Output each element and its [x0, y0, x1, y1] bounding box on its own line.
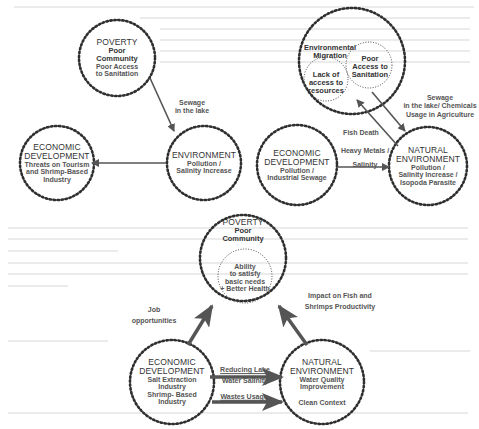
diagram-shapes [0, 0, 479, 429]
node-lack-access: Lack of access to resources [308, 71, 344, 95]
node-text: to Sanitation [96, 70, 138, 77]
node-title: ENVIRONMENT [290, 367, 354, 376]
node-text: Pollution / [172, 160, 236, 167]
node-text: Pollution / [264, 167, 329, 174]
node-migration: Environmental Migration [304, 44, 356, 60]
node-natural-2: NATURAL ENVIRONMENT Water Quality Improv… [290, 358, 354, 406]
node-text: Pollution / [396, 164, 460, 171]
node-title: ENVIRONMENT [396, 155, 460, 164]
node-text: to satisfy [220, 271, 270, 278]
node-text: Salinity Increase / [396, 171, 460, 178]
node-text: + Better Health [220, 285, 270, 292]
node-economic-3: ECONOMIC DEVELOPMENT Salt Extraction Ind… [139, 358, 204, 405]
edge-text: Water Salinity [220, 378, 270, 386]
edge-label-wastes: Wastes Usage [220, 393, 267, 401]
edge-text: in the lake/ Chemicals [403, 103, 476, 111]
node-title: DEVELOPMENT [24, 152, 89, 161]
edge-label-jobs: Job opportunities [132, 306, 177, 326]
node-text: basic needs [220, 278, 270, 285]
edge-label-salinity: Reducing Lake Water Salinity [220, 366, 270, 386]
edge-label-sewage-chem: Sewage in the lake/ Chemicals Usage in A… [403, 94, 476, 119]
node-text: resources [308, 87, 344, 95]
node-text: Sanitation [352, 71, 388, 79]
edge-label-fish-death: Fish Death [343, 129, 379, 137]
node-text: Industry [139, 384, 204, 391]
node-text: Clean Context [290, 399, 354, 406]
node-poor-access: Poor Access to Sanitation [352, 55, 388, 79]
node-economic-2: ECONOMIC DEVELOPMENT Pollution / Industr… [264, 149, 329, 182]
edge-text: Fish Death [343, 129, 379, 137]
node-text: Salt Extraction [139, 376, 204, 383]
node-ability: Ability to satisfy basic needs + Better … [220, 263, 270, 292]
edge-text: Shrimps Productivity [305, 304, 375, 312]
diagram-canvas: POVERTY Poor Community Poor Access to Sa… [0, 0, 479, 429]
node-title: Migration [304, 52, 356, 60]
node-title: DEVELOPMENT [264, 158, 329, 167]
edge-text: Job [132, 306, 177, 314]
edge-label-sewage: Sewage in the lake [175, 99, 209, 116]
edge-text: Wastes Usage [220, 393, 267, 401]
node-text: Shrimp- Based [139, 391, 204, 398]
node-text: Industrial Sewage [264, 174, 329, 181]
edge-text: Salinity [341, 161, 389, 169]
node-natural: NATURAL ENVIRONMENT Pollution / Salinity… [396, 146, 460, 186]
node-subtitle: Community [222, 234, 263, 242]
node-title: ENVIRONMENT [172, 151, 236, 160]
node-title: DEVELOPMENT [139, 367, 204, 376]
node-text: Salinity Increase [172, 167, 236, 174]
node-text: Industry [139, 398, 204, 405]
edge-text: Sewage [175, 99, 209, 107]
node-text: Isopoda Parasite [396, 179, 460, 186]
edge-jobs-arrow [188, 306, 212, 345]
edge-label-heavy-metals: Heavy Metals / Salinity [341, 147, 389, 170]
edge-text: Sewage [403, 94, 476, 102]
node-text: Poor Access [96, 63, 138, 70]
node-subtitle: Community [96, 55, 138, 63]
node-economic: ECONOMIC DEVELOPMENT Threats on Tourism … [24, 143, 89, 183]
edge-text: opportunities [132, 318, 177, 326]
edge-sewage-arrow [150, 78, 174, 131]
edge-text: Usage in Agriculture [403, 111, 476, 119]
edge-impact-arrow [279, 306, 307, 345]
node-text: Ability [220, 263, 270, 270]
edge-text: in the lake [175, 107, 209, 115]
edge-text: Impact on Fish and [305, 292, 375, 300]
edge-text: Reducing Lake [220, 366, 270, 374]
node-environment: ENVIRONMENT Pollution / Salinity Increas… [172, 151, 236, 175]
node-text: Threats on Tourism [24, 161, 89, 168]
edge-label-impact: Impact on Fish and Shrimps Productivity [305, 292, 375, 312]
node-poverty: POVERTY Poor Community Poor Access to Sa… [96, 38, 138, 77]
edge-text: Heavy Metals / [341, 147, 389, 155]
node-text: Industry [24, 176, 89, 183]
node-text: Improvement [290, 383, 354, 390]
node-poverty-2: POVERTY Poor Community [222, 218, 263, 243]
node-text: and Shrimp-Based [24, 168, 89, 175]
node-text: Water Quality [290, 376, 354, 383]
